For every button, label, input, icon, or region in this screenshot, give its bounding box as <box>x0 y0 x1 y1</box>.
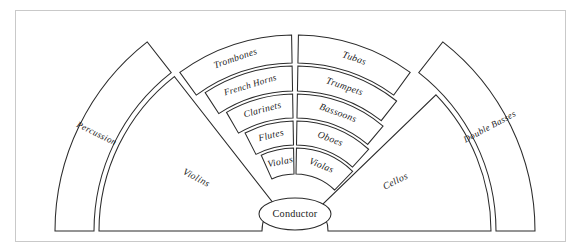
orchestra-seating-diagram: PercussionViolinsTrombonesTubasFrench Ho… <box>0 0 582 252</box>
conductor-label: Conductor <box>273 208 318 219</box>
conductor-podium[interactable]: Conductor <box>259 198 331 230</box>
diagram-stage: PercussionViolinsTrombonesTubasFrench Ho… <box>0 0 582 252</box>
section-violas-left[interactable]: Violas <box>261 148 294 179</box>
